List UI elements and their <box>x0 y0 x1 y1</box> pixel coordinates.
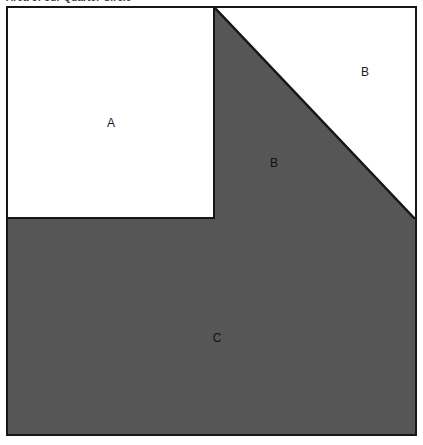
region-c-rectangle <box>8 219 415 434</box>
label-region-b-lower: B <box>264 157 284 169</box>
geometry-figure: A B B C <box>6 6 417 436</box>
region-b-shaded-triangle-icon <box>215 8 415 219</box>
label-region-c: C <box>207 332 227 344</box>
region-a-square <box>8 8 215 219</box>
region-b-block <box>215 8 415 219</box>
label-region-a: A <box>101 117 121 129</box>
label-region-b-upper: B <box>355 66 375 78</box>
page-title: Area of our Quarter Circle <box>6 0 131 3</box>
page-heading-strip: Area of our Quarter Circle <box>0 0 423 5</box>
